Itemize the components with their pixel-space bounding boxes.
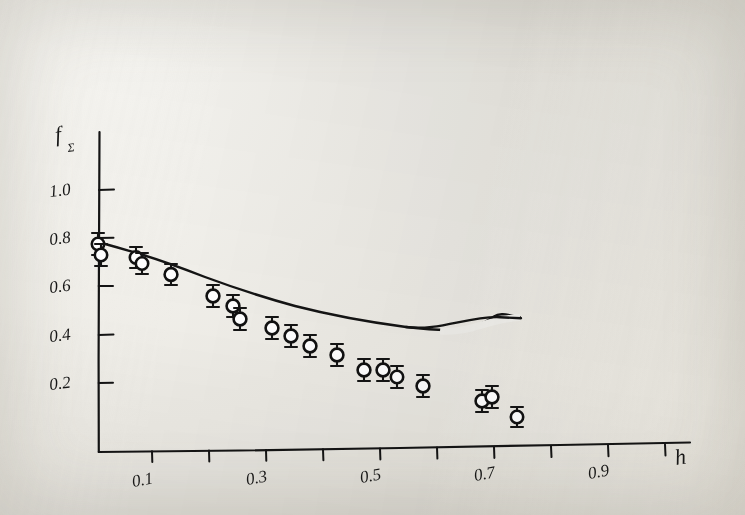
x-tick-label-5: 0.9 (586, 460, 611, 482)
y-tick-labels: 1.0 0.8 0.6 0.4 0.2 (48, 179, 72, 394)
y-tick-label-5: 0.2 (48, 372, 72, 394)
y-axis-label-subscript: Σ (65, 140, 75, 155)
axis-group (99, 132, 690, 452)
data-point (304, 335, 317, 357)
y-axis-label: f Σ (53, 121, 75, 155)
y-tick-label-4: 0.4 (48, 324, 72, 346)
x-tick-label-1: 0.1 (130, 469, 154, 491)
x-tick-label-3: 0.5 (358, 465, 382, 487)
figure-canvas: 1.0 0.8 0.6 0.4 0.2 0.1 0.3 0.5 0.7 0.9 … (0, 0, 745, 515)
data-point (165, 264, 178, 285)
y-tick-label-1: 1.0 (48, 179, 72, 201)
data-point (266, 317, 279, 339)
data-point (358, 359, 371, 381)
x-tick-labels: 0.1 0.3 0.5 0.7 0.9 (130, 460, 611, 490)
y-axis-line (99, 132, 100, 452)
data-point (391, 366, 403, 388)
plot-svg: 1.0 0.8 0.6 0.4 0.2 0.1 0.3 0.5 0.7 0.9 … (0, 0, 745, 515)
data-point (285, 325, 298, 347)
x-axis-label: h (673, 444, 688, 470)
data-point (377, 359, 390, 381)
x-tick-label-4: 0.7 (472, 462, 498, 485)
data-point (331, 344, 344, 366)
x-tick-label-2: 0.3 (244, 467, 268, 489)
y-tick-label-3: 0.6 (48, 275, 72, 297)
y-axis-label-main: f (53, 121, 65, 147)
data-point (417, 375, 430, 397)
y-tick-label-2: 0.8 (48, 227, 72, 249)
y-tick-marks (99, 190, 114, 383)
data-point (511, 407, 523, 427)
x-axis-line (99, 443, 690, 453)
theory-curve (97, 242, 520, 330)
data-point (207, 285, 220, 307)
